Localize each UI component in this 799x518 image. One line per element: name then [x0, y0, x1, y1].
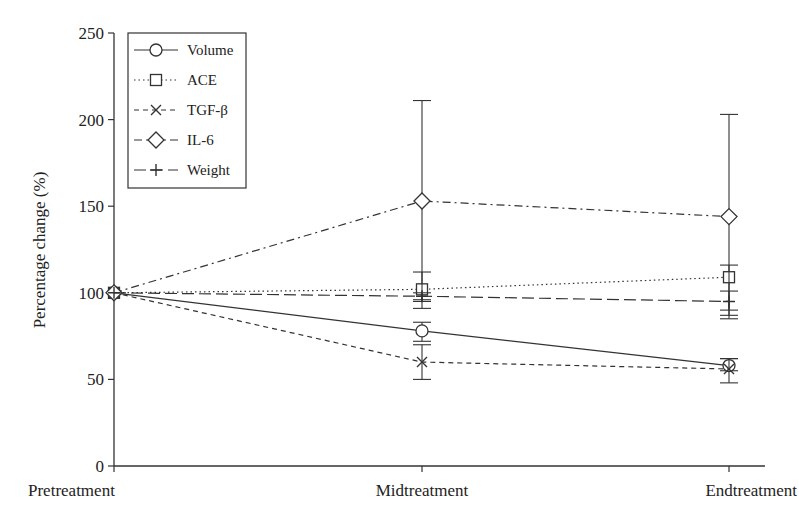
x-category-label: Pretreatment	[28, 481, 115, 500]
data-point-circle-icon	[416, 325, 428, 337]
y-tick-label: 200	[79, 111, 105, 130]
legend-circle-icon	[150, 44, 162, 56]
legend-label: Volume	[187, 42, 234, 58]
x-category-label: Midtreatment	[376, 481, 469, 500]
y-axis-label: Percentage change (%)	[30, 172, 49, 329]
legend-label: TGF-β	[187, 102, 228, 118]
data-point-plus-icon	[723, 295, 735, 307]
series-ace	[109, 265, 739, 315]
y-tick-label: 150	[79, 197, 105, 216]
data-point-diamond-icon	[414, 193, 430, 209]
legend-square-icon	[151, 75, 162, 86]
y-tick-label: 0	[96, 457, 105, 476]
legend-label: ACE	[187, 72, 217, 88]
line-chart: 050100150200250PretreatmentMidtreatmentE…	[0, 0, 799, 518]
legend: VolumeACETGF-βIL-6Weight	[128, 33, 246, 188]
data-point-diamond-icon	[721, 209, 737, 225]
y-tick-label: 250	[79, 24, 105, 43]
x-category-label: Endtreatment	[705, 481, 797, 500]
y-tick-label: 100	[79, 284, 105, 303]
y-tick-label: 50	[87, 370, 104, 389]
legend-label: Weight	[187, 162, 231, 178]
legend-label: IL-6	[187, 132, 214, 148]
